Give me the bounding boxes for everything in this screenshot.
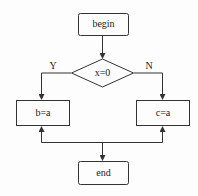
begin-label: begin: [78, 19, 129, 29]
flowchart-canvas: begin x=0 Y N b=a c=a end: [0, 0, 198, 196]
decision-label: x=0: [80, 68, 125, 78]
right-process-label: c=a: [136, 108, 190, 118]
left-process-label: b=a: [16, 108, 70, 118]
edge-yes: [42, 73, 72, 99]
yes-label: Y: [48, 61, 58, 71]
edge-no: [134, 73, 163, 99]
end-label: end: [78, 168, 129, 178]
no-label: N: [144, 61, 154, 71]
